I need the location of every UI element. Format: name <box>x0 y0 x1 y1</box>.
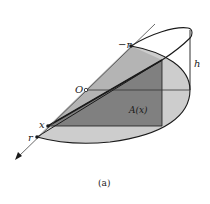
figure-caption: (a) <box>98 178 110 188</box>
point-r <box>35 135 39 139</box>
label-r: r <box>28 132 34 143</box>
label-x: x <box>39 119 45 130</box>
label-neg-r: −r <box>118 39 132 50</box>
x-axis-arrow-icon <box>15 152 22 160</box>
solid-cross-section-diagram: −r O x r h A(x) (a) <box>0 0 210 204</box>
label-h: h <box>194 58 200 69</box>
point-origin <box>84 88 87 91</box>
label-area: A(x) <box>128 105 148 115</box>
label-origin: O <box>75 84 83 95</box>
point-x <box>46 124 50 128</box>
